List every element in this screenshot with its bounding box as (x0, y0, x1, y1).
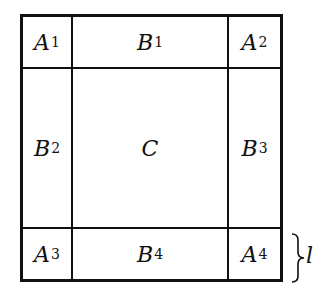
cell-b4: B4 (73, 229, 227, 279)
cell-a4-label: A (242, 242, 258, 267)
cell-a3: A3 (23, 229, 71, 279)
cell-b2-subscript: 2 (51, 140, 60, 156)
cell-a2-subscript: 2 (258, 34, 267, 50)
outer-border-bottom (20, 279, 283, 282)
cell-a4-subscript: 4 (258, 246, 267, 262)
cell-a3-subscript: 3 (51, 246, 60, 262)
cell-c-label: C (142, 136, 159, 161)
cell-b1: B1 (73, 17, 227, 67)
cell-b2-label: B (34, 136, 50, 161)
cell-a2: A2 (229, 17, 280, 67)
cell-b2: B2 (23, 69, 71, 227)
cell-b3-label: B (241, 136, 257, 161)
cell-a3-label: A (34, 242, 50, 267)
cell-a1-subscript: 1 (51, 34, 60, 50)
cell-a1-label: A (34, 30, 50, 55)
cell-b1-subscript: 1 (154, 34, 163, 50)
cell-a4: A4 (229, 229, 280, 279)
cell-b1-label: B (137, 30, 153, 55)
brace-label: l (306, 243, 313, 268)
cell-a1: A1 (23, 17, 71, 67)
cell-a2-label: A (242, 30, 258, 55)
cell-b3: B3 (229, 69, 280, 227)
cell-b4-label: B (137, 242, 153, 267)
outer-border-right (280, 14, 283, 282)
curly-brace-icon (290, 232, 306, 284)
cell-b4-subscript: 4 (154, 246, 163, 262)
partition-diagram: A1 B1 A2 B2 C B3 A3 B4 A4 l (0, 0, 327, 293)
cell-c: C (73, 69, 227, 227)
cell-b3-subscript: 3 (259, 140, 268, 156)
